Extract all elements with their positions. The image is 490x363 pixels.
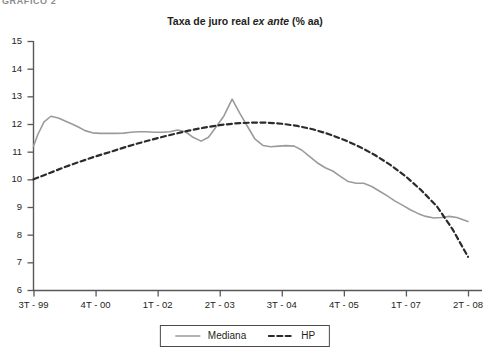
x-axis-tick-label: 2T - 03 [205, 299, 235, 310]
y-axis-tick-label: 9 [0, 202, 22, 212]
chart-legend: MedianaHP [160, 325, 330, 347]
y-axis-tick-label: 15 [0, 36, 22, 46]
x-axis-ticks [34, 291, 469, 297]
series-line-mediana [34, 99, 469, 221]
x-axis-tick-label: 4T - 00 [81, 299, 111, 310]
series-line-hp [34, 123, 469, 257]
x-axis-tick-label: 3T - 99 [19, 299, 49, 310]
legend-item-mediana[interactable]: Mediana [175, 330, 246, 341]
chart-canvas [0, 0, 490, 305]
y-axis-tick-label: 12 [0, 119, 22, 129]
x-axis-tick-label: 1T - 02 [143, 299, 173, 310]
chart-plot-area: 1514131211109876 3T - 994T - 001T - 022T… [0, 0, 490, 305]
legend-label: HP [301, 330, 315, 341]
legend-swatch-dashed-line-icon [268, 331, 294, 341]
x-axis-tick-label: 4T - 05 [329, 299, 359, 310]
y-axis-ticks [28, 42, 34, 291]
legend-label: Mediana [208, 330, 246, 341]
y-axis-tick-label: 11 [0, 147, 22, 157]
y-axis-tick-label: 6 [0, 285, 22, 295]
y-axis-tick-label: 13 [0, 91, 22, 101]
y-axis-tick-label: 7 [0, 257, 22, 267]
y-axis-tick-label: 10 [0, 174, 22, 184]
y-axis-tick-label: 8 [0, 230, 22, 240]
legend-swatch-solid-line-icon [175, 331, 201, 341]
x-axis-tick-label: 3T - 04 [267, 299, 297, 310]
x-axis-tick-label: 1T - 07 [391, 299, 421, 310]
y-axis-tick-label: 14 [0, 64, 22, 74]
legend-item-hp[interactable]: HP [268, 330, 315, 341]
x-axis-tick-label: 2T - 08 [453, 299, 483, 310]
chart-axes [28, 41, 483, 297]
chart-series-group [34, 99, 469, 257]
